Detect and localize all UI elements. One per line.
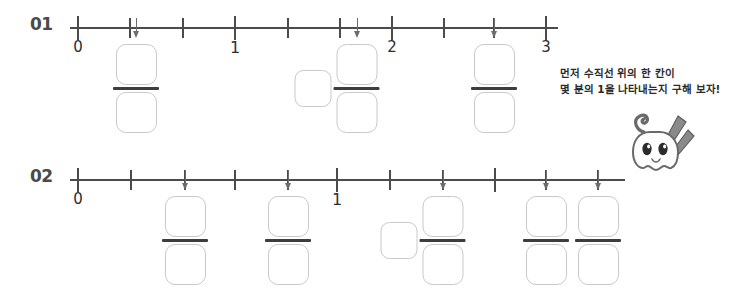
numerator-input-box[interactable] (165, 196, 206, 237)
denominator-input-box[interactable] (474, 92, 515, 133)
fraction-stack (162, 196, 208, 285)
fraction-stack (420, 196, 466, 285)
axis-tick (182, 18, 184, 38)
fraction-stack (334, 44, 380, 133)
denominator-input-box[interactable] (526, 244, 567, 285)
numerator-input-box[interactable] (336, 44, 377, 85)
fraction-answer-group (162, 196, 208, 285)
numerator-input-box[interactable] (116, 44, 157, 85)
whole-number-input-box[interactable] (381, 222, 418, 259)
axis-tick (336, 168, 338, 192)
denominator-input-box[interactable] (116, 92, 157, 133)
denominator-input-box[interactable] (268, 244, 309, 285)
axis-tick (339, 18, 341, 38)
hint-line-1: 먼저 수직선 위의 한 칸이 (560, 65, 720, 81)
ghost-mascot-with-pencils-icon (620, 108, 706, 180)
axis-tick (391, 16, 393, 40)
axis-tick-label: 0 (73, 190, 83, 208)
axis-tick (494, 168, 496, 192)
axis-tick (129, 18, 131, 38)
axis-tick-label: 0 (73, 38, 83, 56)
denominator-input-box[interactable] (422, 244, 463, 285)
fraction-bar (334, 87, 380, 90)
fraction-stack (575, 196, 621, 285)
axis-tick-label: 2 (387, 38, 397, 56)
axis-tick (77, 16, 79, 40)
fraction-answer-group (265, 196, 311, 285)
axis-line (70, 27, 558, 29)
fraction-stack (523, 196, 569, 285)
mixed-number-answer-group (295, 44, 380, 133)
fraction-bar (523, 239, 569, 242)
numerator-input-box[interactable] (268, 196, 309, 237)
hint-line-2: 몇 분의 1을 나타내는지 구해 보자! (560, 81, 720, 97)
axis-tick (234, 170, 236, 190)
denominator-input-box[interactable] (336, 92, 377, 133)
fraction-bar (420, 239, 466, 242)
axis-tick (545, 16, 547, 40)
fraction-bar (265, 239, 311, 242)
axis-tick (443, 18, 445, 38)
numerator-input-box[interactable] (526, 196, 567, 237)
mixed-number-answer-group (381, 196, 466, 285)
fraction-bar (471, 87, 517, 90)
numerator-input-box[interactable] (578, 196, 619, 237)
number-line-01: 0123 (0, 16, 730, 66)
axis-tick (389, 170, 391, 190)
axis-tick (234, 16, 236, 40)
fraction-answer-group (575, 196, 621, 285)
axis-tick-label: 1 (332, 190, 342, 209)
numerator-input-box[interactable] (422, 196, 463, 237)
hint-text: 먼저 수직선 위의 한 칸이 몇 분의 1을 나타내는지 구해 보자! (560, 65, 720, 98)
denominator-input-box[interactable] (578, 244, 619, 285)
whole-number-input-box[interactable] (295, 70, 332, 107)
numerator-input-box[interactable] (474, 44, 515, 85)
fraction-bar (113, 87, 159, 90)
fraction-answer-group (471, 44, 517, 133)
axis-line (70, 179, 625, 181)
fraction-stack (471, 44, 517, 133)
axis-tick-label: 1 (230, 38, 240, 57)
axis-tick (130, 170, 132, 190)
fraction-answer-group (523, 196, 569, 285)
fraction-bar (575, 239, 621, 242)
fraction-numberline-worksheet: 01 0123 먼저 수직선 위의 한 칸이 몇 분의 1을 나타내는지 구해 … (0, 0, 730, 296)
axis-tick (77, 168, 79, 192)
fraction-stack (113, 44, 159, 133)
fraction-stack (265, 196, 311, 285)
axis-tick-label: 3 (541, 38, 551, 56)
fraction-bar (162, 239, 208, 242)
denominator-input-box[interactable] (165, 244, 206, 285)
fraction-answer-group (113, 44, 159, 133)
axis-tick (287, 18, 289, 38)
